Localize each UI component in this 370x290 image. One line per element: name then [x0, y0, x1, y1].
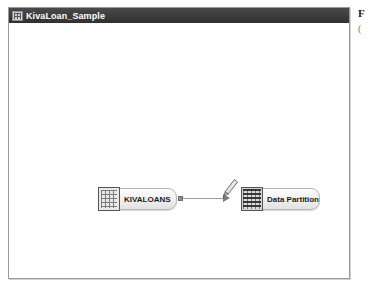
table-icon — [98, 187, 120, 211]
screen: F ( KivaLoan_Sample KIVALOANS — [0, 0, 370, 290]
node-kivaloans-label: KIVALOANS — [124, 195, 171, 204]
diagram-canvas[interactable]: KIVALOANS Data Partition — [9, 23, 349, 278]
arrow-right-icon — [223, 194, 230, 202]
node-data-partition-label: Data Partition — [267, 195, 319, 204]
window-title: KivaLoan_Sample — [26, 11, 105, 21]
fragment-line-2: ( — [358, 21, 370, 36]
table-grid-icon — [12, 11, 23, 21]
window-titlebar[interactable]: KivaLoan_Sample — [9, 8, 349, 23]
partition-icon — [241, 187, 263, 211]
node-data-partition[interactable]: Data Partition — [244, 188, 320, 210]
fragment-line-1: F — [358, 6, 370, 21]
node-kivaloans[interactable]: KIVALOANS — [101, 188, 177, 210]
application-window: KivaLoan_Sample KIVALOANS — [8, 7, 350, 279]
page-edge-fragment: F ( — [358, 6, 370, 36]
connector-line — [183, 198, 225, 199]
